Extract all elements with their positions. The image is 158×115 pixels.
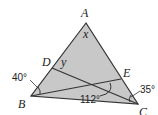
vertex-label-e: E [122, 66, 131, 80]
leader-35 [131, 91, 140, 97]
vertex-label-d: D [41, 55, 51, 69]
angle-label-35: 35° [140, 84, 155, 95]
angle-label-112: 112° [80, 94, 100, 105]
angle-label-40: 40° [12, 72, 27, 83]
leader-40 [30, 80, 38, 88]
vertex-label-a: A [80, 6, 89, 20]
triangle-diagram: A B C D E x y 40° 35° 112° [0, 0, 158, 115]
vertex-label-c: C [139, 105, 148, 115]
vertex-label-b: B [18, 97, 26, 111]
angle-label-x: x [82, 27, 89, 41]
angle-label-y: y [60, 55, 67, 69]
